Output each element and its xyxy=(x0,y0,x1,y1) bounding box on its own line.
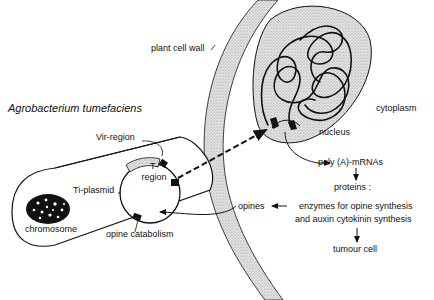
label-poly-a-mrnas: poly (A)-mRNAs xyxy=(318,158,383,167)
label-opine-catabolism: opine catabolism xyxy=(106,230,174,239)
label-plant-cell-wall: plant cell wall xyxy=(151,44,205,53)
label-proteins: proteins : xyxy=(334,183,371,192)
label-cytoplasm: cytoplasm xyxy=(376,104,417,113)
chromosome-blob xyxy=(26,194,70,224)
diagram-canvas: plant cell wall Agrobacterium tumefacien… xyxy=(0,0,434,300)
label-opines: opines xyxy=(238,202,265,211)
label-t-region-1: T- xyxy=(139,162,169,171)
diagram-title: Agrobacterium tumefaciens xyxy=(8,103,142,114)
label-t-region-2: region xyxy=(136,173,172,182)
label-vir-region: Vir-region xyxy=(96,133,135,142)
label-ti-plasmid: Ti-plasmid xyxy=(73,186,114,195)
label-chromosome: chromosome xyxy=(25,225,77,234)
label-nucleus: nucleus xyxy=(319,128,350,137)
label-enzymes-line2: and auxin cytokinin synthesis xyxy=(295,215,412,224)
label-enzymes-line1: enzymes for opine synthesis xyxy=(299,202,413,211)
diagram-svg xyxy=(0,0,434,300)
label-tumour-cell: tumour cell xyxy=(333,245,377,254)
